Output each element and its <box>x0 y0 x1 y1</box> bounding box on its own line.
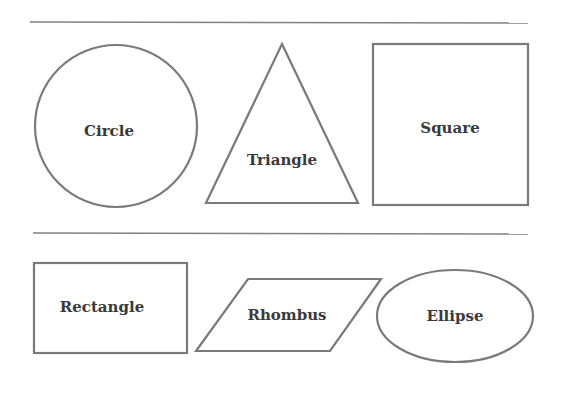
rhombus-shape-group: Rhombus <box>196 279 381 351</box>
ellipse-shape-group: Ellipse <box>377 270 533 362</box>
triangle-label: Triangle <box>247 151 317 169</box>
triangle-shape <box>206 44 358 203</box>
circle-label: Circle <box>84 122 134 140</box>
rectangle-shape-group: Rectangle <box>34 263 187 353</box>
circle-shape-group: Circle <box>35 45 197 207</box>
top-divider-line <box>30 22 528 23</box>
rectangle-label: Rectangle <box>60 298 144 316</box>
square-label: Square <box>420 119 479 137</box>
square-shape-group: Square <box>373 44 528 205</box>
ellipse-label: Ellipse <box>426 307 483 325</box>
rhombus-label: Rhombus <box>247 306 326 324</box>
triangle-shape-group: Triangle <box>206 44 358 203</box>
middle-divider-line <box>33 233 528 234</box>
shapes-diagram: Circle Triangle Square Rectangle Rhombus… <box>0 0 567 396</box>
diagram-svg: Circle Triangle Square Rectangle Rhombus… <box>0 0 567 396</box>
